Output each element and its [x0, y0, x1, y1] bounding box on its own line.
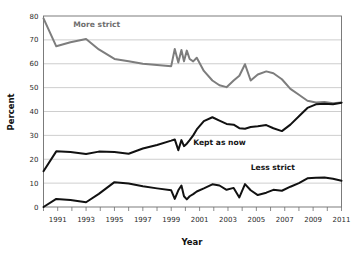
x-tick-label-2005: 2005 — [247, 216, 265, 224]
series-label-kept-as-now: Kept as now — [193, 138, 246, 147]
x-axis-title: Year — [180, 237, 203, 247]
y-tick-label-80: 80 — [30, 13, 39, 21]
line-chart: 01020304050607080 1991199319951997199920… — [0, 0, 356, 254]
x-tick-label-1997: 1997 — [134, 216, 152, 224]
y-tick-label-30: 30 — [30, 132, 39, 140]
x-tick-label-2003: 2003 — [219, 216, 237, 224]
series-label-more-strict: More strict — [73, 20, 120, 29]
y-tick-label-70: 70 — [30, 36, 39, 44]
y-tick-label-50: 50 — [30, 84, 39, 92]
x-tick-label-1991: 1991 — [49, 216, 67, 224]
x-tick-label-2007: 2007 — [276, 216, 294, 224]
x-tick-label-1999: 1999 — [162, 216, 180, 224]
chart-page: 01020304050607080 1991199319951997199920… — [0, 0, 356, 254]
y-tick-label-0: 0 — [34, 204, 38, 212]
x-tick-label-1993: 1993 — [77, 216, 95, 224]
x-tick-label-1995: 1995 — [106, 216, 124, 224]
x-tick-label-2009: 2009 — [304, 216, 322, 224]
x-tick-label-2001: 2001 — [191, 216, 209, 224]
y-tick-labels: 01020304050607080 — [30, 13, 39, 212]
y-tick-label-20: 20 — [30, 156, 39, 164]
y-axis-title: Percent — [6, 93, 16, 130]
series-label-less-strict: Less strict — [251, 163, 296, 172]
x-tick-label-2011: 2011 — [333, 216, 351, 224]
y-tick-label-40: 40 — [30, 108, 39, 116]
y-tick-label-10: 10 — [30, 180, 39, 188]
x-tick-labels: 1991199319951997199920012003200520072009… — [49, 216, 351, 224]
y-tick-label-60: 60 — [30, 60, 39, 68]
